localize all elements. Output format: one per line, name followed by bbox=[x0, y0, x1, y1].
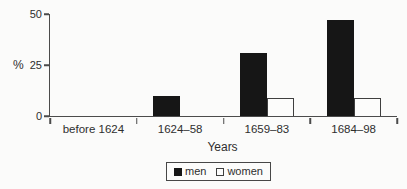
bar-men bbox=[153, 96, 180, 116]
x-tick-mark bbox=[223, 118, 225, 124]
legend-swatch-men-icon bbox=[174, 168, 182, 176]
legend-item-men: men bbox=[174, 166, 206, 177]
y-tick-label: 50 bbox=[14, 9, 42, 20]
y-tick-label: 0 bbox=[14, 111, 42, 122]
y-tick-mark bbox=[44, 115, 49, 117]
plot-area: 02550before 16241624–581659–831684–98 bbox=[49, 14, 397, 117]
y-tick-mark bbox=[44, 64, 49, 66]
bar-men bbox=[327, 20, 354, 116]
legend-swatch-women-icon bbox=[216, 168, 224, 176]
x-category-label: 1684–98 bbox=[331, 124, 376, 136]
legend-label-men: men bbox=[185, 166, 206, 177]
x-category-label: before 1624 bbox=[63, 124, 124, 136]
y-tick-mark bbox=[44, 13, 49, 15]
x-tick-mark bbox=[396, 118, 398, 124]
legend-label-women: women bbox=[227, 166, 262, 177]
x-category-label: 1624–58 bbox=[158, 124, 203, 136]
x-tick-mark bbox=[310, 118, 312, 124]
legend: menwomen bbox=[166, 162, 271, 181]
x-tick-mark bbox=[49, 118, 51, 124]
x-category-label: 1659–83 bbox=[244, 124, 289, 136]
x-axis-label: Years bbox=[49, 140, 396, 154]
bar-men bbox=[240, 53, 267, 116]
legend-item-women: women bbox=[216, 166, 262, 177]
bar-women bbox=[267, 98, 294, 116]
x-tick-mark bbox=[136, 118, 138, 124]
bar-women bbox=[354, 98, 381, 116]
y-tick-label: 25 bbox=[14, 60, 42, 71]
